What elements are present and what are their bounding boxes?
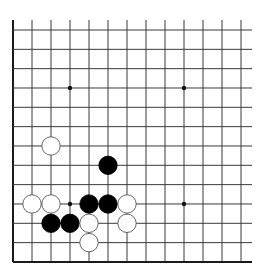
white-stone [42, 195, 60, 213]
white-stone [80, 214, 98, 232]
white-stone [80, 233, 98, 251]
black-stone [42, 214, 60, 232]
white-stone [42, 137, 60, 155]
black-stone [80, 195, 98, 213]
star-point-icon [182, 86, 186, 90]
stones-layer [23, 137, 136, 252]
star-point-icon [182, 202, 186, 206]
black-stone [99, 195, 117, 213]
star-point-icon [68, 202, 72, 206]
white-stone [23, 195, 41, 213]
go-board [0, 0, 262, 278]
white-stone [118, 214, 136, 232]
black-stone [61, 214, 79, 232]
black-stone [99, 156, 117, 174]
white-stone [118, 195, 136, 213]
star-point-icon [68, 86, 72, 90]
